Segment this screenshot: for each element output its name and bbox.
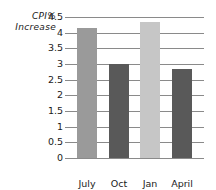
y-axis-tick-right xyxy=(198,80,204,81)
gridline xyxy=(71,17,198,18)
y-axis-tick-right xyxy=(198,33,204,34)
y-axis-tick-label: 1.5 xyxy=(27,106,63,116)
y-axis-tick-label: 1 xyxy=(27,122,63,132)
y-axis-tick xyxy=(65,111,71,112)
y-axis-tick-label: 3 xyxy=(27,59,63,69)
x-axis-category-line: 2001 xyxy=(159,189,205,190)
y-axis-tick xyxy=(65,95,71,96)
y-axis-tick-label: 0.5 xyxy=(27,137,63,147)
y-axis-tick xyxy=(65,64,71,65)
y-axis-tick-right xyxy=(198,158,204,159)
bar xyxy=(172,69,192,158)
bar xyxy=(140,22,160,158)
y-axis-tick xyxy=(65,48,71,49)
x-axis-category-label: April2001 xyxy=(159,178,205,190)
y-axis-tick xyxy=(65,127,71,128)
bar-chart: CPI% Increase 4.543.532.521.510.50July20… xyxy=(0,0,216,190)
y-axis-tick xyxy=(65,158,71,159)
y-axis-tick-label: 3.5 xyxy=(27,43,63,53)
gridline xyxy=(71,158,198,159)
y-axis-tick-label: 4 xyxy=(27,28,63,38)
y-axis-tick xyxy=(65,33,71,34)
y-axis-tick-right xyxy=(198,111,204,112)
y-axis-tick-label: 4.5 xyxy=(27,12,63,22)
y-axis-tick-right xyxy=(198,64,204,65)
x-axis-category-line: April xyxy=(159,178,205,189)
y-axis-tick-label: 0 xyxy=(27,153,63,163)
y-axis-tick-right xyxy=(198,142,204,143)
y-axis-tick-right xyxy=(198,127,204,128)
y-axis-tick-right xyxy=(198,95,204,96)
y-axis-tick xyxy=(65,17,71,18)
y-axis-tick-label: 2.5 xyxy=(27,75,63,85)
plot-area: 4.543.532.521.510.50July2000Oct2000Jan20… xyxy=(71,17,198,158)
y-axis-tick-right xyxy=(198,48,204,49)
y-axis-tick-right xyxy=(198,17,204,18)
bar xyxy=(109,64,129,158)
y-axis-tick xyxy=(65,142,71,143)
bar xyxy=(77,28,97,158)
y-axis-tick xyxy=(65,80,71,81)
y-axis-tick-label: 2 xyxy=(27,90,63,100)
